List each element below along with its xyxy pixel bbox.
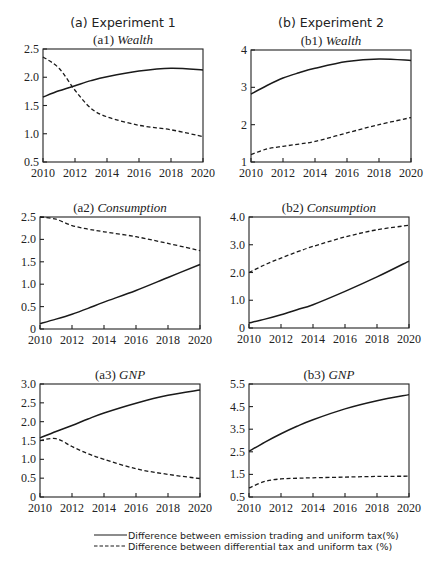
- plot-frame: [249, 384, 409, 497]
- panel-title: (b2) Consumption: [282, 200, 376, 215]
- experiment-2-title: (b) Experiment 2: [278, 15, 384, 30]
- y-tick-label: 0.5: [21, 300, 36, 314]
- y-tick-label: 4.0: [230, 210, 245, 224]
- x-tick-label: 2020: [188, 501, 212, 515]
- x-tick-label: 2016: [124, 333, 148, 347]
- x-tick-label: 2016: [333, 332, 357, 346]
- y-tick-label: 2.0: [21, 415, 36, 429]
- x-tick-label: 2018: [365, 332, 389, 346]
- y-tick-label: 2.0: [24, 70, 39, 84]
- panel-title-prefix: (a2): [73, 200, 97, 215]
- x-tick-label: 2012: [271, 166, 295, 180]
- y-tick-label: 1.5: [24, 99, 39, 113]
- differential-tax-series-line: [249, 225, 409, 272]
- panel-a2-consumption: (a2) Consumption00.51.01.52.02.520102012…: [21, 200, 212, 347]
- x-tick-label: 2014: [303, 166, 327, 180]
- y-tick-label: 2.5: [21, 210, 36, 224]
- panel-title-prefix: (b3): [304, 367, 329, 382]
- panel-title-variable: Wealth: [326, 33, 362, 48]
- y-tick-label: 4: [241, 43, 247, 57]
- legend-label-emission-trading: Difference between emission trading and …: [128, 530, 399, 541]
- plot-frame: [43, 49, 203, 162]
- x-tick-label: 2020: [397, 501, 421, 515]
- legend-item-differential-tax: Difference between differential tax and …: [94, 541, 392, 552]
- y-tick-label: 2.5: [21, 396, 36, 410]
- x-tick-label: 2014: [301, 332, 325, 346]
- figure: (a) Experiment 1 (b) Experiment 2 (a1) W…: [0, 0, 439, 569]
- y-tick-label: 1.5: [21, 255, 36, 269]
- emission-trading-series-line: [249, 395, 409, 452]
- panel-title-prefix: (b1): [301, 33, 326, 48]
- x-tick-label: 2012: [63, 166, 87, 180]
- y-tick-label: 1.5: [21, 434, 36, 448]
- emission-trading-series-line: [43, 68, 203, 97]
- x-tick-label: 2010: [28, 333, 52, 347]
- panel-title: (a1) Wealth: [93, 32, 153, 47]
- y-tick-label: 1.0: [24, 127, 39, 141]
- differential-tax-series-line: [40, 438, 200, 478]
- y-tick-label: 3.0: [230, 238, 245, 252]
- y-tick-label: 1.5: [230, 467, 245, 481]
- legend-item-emission-trading: Difference between emission trading and …: [94, 530, 399, 541]
- y-tick-label: 4.5: [230, 400, 245, 414]
- panel-title-prefix: (a3): [95, 367, 119, 382]
- x-tick-label: 2014: [92, 333, 116, 347]
- legend: Difference between emission trading and …: [94, 530, 399, 552]
- panel-a1-wealth: (a1) Wealth0.51.01.52.02.520102012201420…: [24, 32, 215, 180]
- panel-a3-gnp: (a3) GNP00.51.01.52.02.53.02010201220142…: [21, 367, 212, 515]
- y-tick-label: 3.5: [230, 422, 245, 436]
- x-tick-label: 2014: [301, 501, 325, 515]
- x-tick-label: 2012: [60, 501, 84, 515]
- y-tick-label: 3.0: [21, 377, 36, 391]
- y-tick-label: 0.5: [21, 471, 36, 485]
- y-tick-label: 2.5: [24, 42, 39, 56]
- panel-title: (a2) Consumption: [73, 200, 167, 215]
- panel-b1-wealth: (b1) Wealth1234201020122014201620182020: [239, 33, 423, 180]
- y-tick-label: 1.0: [21, 452, 36, 466]
- panel-title-variable: Consumption: [97, 200, 166, 215]
- plot-frame: [40, 217, 200, 329]
- differential-tax-series-line: [40, 217, 200, 251]
- x-tick-label: 2010: [239, 166, 263, 180]
- x-tick-label: 2016: [127, 166, 151, 180]
- x-tick-label: 2010: [31, 166, 55, 180]
- x-tick-label: 2012: [60, 333, 84, 347]
- panel-title-variable: GNP: [328, 367, 354, 382]
- x-tick-label: 2010: [28, 501, 52, 515]
- panel-title-prefix: (a1): [93, 32, 117, 47]
- y-tick-label: 1.0: [21, 277, 36, 291]
- y-tick-label: 5.5: [230, 377, 245, 391]
- x-tick-label: 2014: [95, 166, 119, 180]
- panel-title-variable: Consumption: [307, 200, 376, 215]
- x-tick-label: 2014: [92, 501, 116, 515]
- panel-title: (b3) GNP: [304, 367, 355, 382]
- differential-tax-series-line: [249, 476, 409, 488]
- x-tick-label: 2018: [367, 166, 391, 180]
- x-tick-label: 2012: [269, 501, 293, 515]
- panel-title-variable: GNP: [119, 367, 145, 382]
- x-tick-label: 2020: [191, 166, 215, 180]
- panel-title-prefix: (b2): [282, 200, 307, 215]
- plot-frame: [251, 50, 411, 162]
- x-tick-label: 2020: [399, 166, 423, 180]
- x-tick-label: 2016: [335, 166, 359, 180]
- emission-trading-series-line: [251, 59, 411, 94]
- y-tick-label: 1.0: [230, 293, 245, 307]
- y-tick-label: 3: [241, 80, 247, 94]
- y-tick-label: 2.0: [21, 232, 36, 246]
- x-tick-label: 2010: [237, 501, 261, 515]
- emission-trading-series-line: [40, 390, 200, 438]
- experiment-1-title: (a) Experiment 1: [70, 15, 176, 30]
- y-tick-label: 2.5: [230, 445, 245, 459]
- x-tick-label: 2016: [333, 501, 357, 515]
- x-tick-label: 2018: [156, 501, 180, 515]
- x-tick-label: 2018: [159, 166, 183, 180]
- panel-title: (a3) GNP: [95, 367, 145, 382]
- panel-b2-consumption: (b2) Consumption01.02.03.04.020102012201…: [230, 200, 421, 346]
- emission-trading-series-line: [40, 264, 200, 323]
- emission-trading-series-line: [249, 261, 409, 323]
- panel-title: (b1) Wealth: [301, 33, 362, 48]
- x-tick-label: 2018: [156, 333, 180, 347]
- y-tick-label: 2.0: [230, 266, 245, 280]
- x-tick-label: 2012: [269, 332, 293, 346]
